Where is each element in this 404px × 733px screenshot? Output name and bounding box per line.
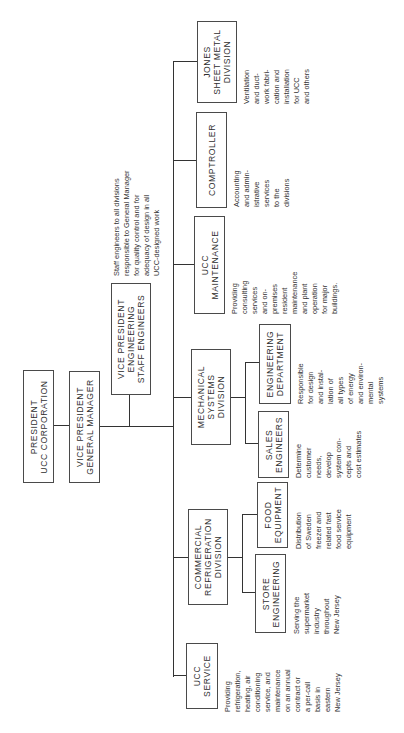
note-food-equipment: Distribution of Sweden freezer and relat… xyxy=(294,509,354,549)
box-engineering-department: ENGINEERING DEPARTMENT xyxy=(259,324,291,404)
label-president: PRESIDENT UCC CORPORATION xyxy=(29,380,49,473)
connector-jones xyxy=(173,61,197,62)
note-comptroller: Accounting and admin- istrative services… xyxy=(232,170,292,207)
connector-mechanical xyxy=(173,397,191,398)
connector-mech-sub xyxy=(231,397,246,398)
connector-comm-sub xyxy=(228,557,243,558)
label-ucc-service: UCC SERVICE xyxy=(192,655,212,697)
label-comptroller: COMPTROLLER xyxy=(207,124,217,196)
label-vp-general-manager: VICE PRESIDENT GENERAL MANAGER xyxy=(75,379,95,475)
label-vp-engineering: VICE PRESIDENT ENGINEERING STAFF ENGINEE… xyxy=(116,295,146,384)
label-sales-engineers: SALES ENGINEERS xyxy=(264,416,284,472)
main-bus-line xyxy=(173,61,174,677)
label-food-equipment: FOOD EQUIPMENT xyxy=(263,487,283,544)
note-jones-sheet-metal: Ventilation and duct- work fabri- cation… xyxy=(242,69,312,104)
box-vp-general-manager: VICE PRESIDENT GENERAL MANAGER xyxy=(69,371,100,483)
connector-eng-dept xyxy=(245,362,259,363)
note-engineering-department: Responsible for design and instal- latio… xyxy=(296,363,386,404)
box-ucc-service: UCC SERVICE xyxy=(186,643,218,709)
note-ucc-maintenance: Providing consulting services and on- pr… xyxy=(230,272,340,314)
box-mechanical-systems: MECHANICAL SYSTEMS DIVISION xyxy=(191,349,231,445)
box-comptroller: COMPTROLLER xyxy=(196,112,227,208)
connector-comm-sub-vertical xyxy=(242,514,243,593)
note-sales-engineers: Determine customer needs, develop system… xyxy=(294,431,364,478)
note-vp-engineering: Staff engineers to all divisions respons… xyxy=(112,170,162,276)
box-sales-engineers: SALES ENGINEERS xyxy=(258,411,289,478)
note-store-engineering: Serving the supermarket industry through… xyxy=(292,593,342,634)
label-mechanical-systems: MECHANICAL SYSTEMS DIVISION xyxy=(196,366,226,428)
connector-sales-eng xyxy=(245,443,258,444)
connector-president-vpgm xyxy=(53,425,69,426)
connector-vpeng xyxy=(129,395,130,427)
box-food-equipment: FOOD EQUIPMENT xyxy=(257,482,288,548)
box-store-engineering: STORE ENGINEERING xyxy=(255,554,286,633)
connector-ucc-service xyxy=(173,675,186,676)
box-president: PRESIDENT UCC CORPORATION xyxy=(23,370,54,483)
connector-ucc-maint xyxy=(173,264,194,265)
label-store-engineering: STORE ENGINEERING xyxy=(261,560,281,627)
label-engineering-department: ENGINEERING DEPARTMENT xyxy=(265,331,285,398)
box-jones-sheet-metal: JONES SHEET METAL DIVISION xyxy=(197,21,237,103)
box-ucc-maintenance: UCC MAINTENANCE xyxy=(194,216,225,314)
label-ucc-maintenance: UCC MAINTENANCE xyxy=(200,230,220,299)
connector-commercial xyxy=(173,557,188,558)
box-commercial-refrigeration: COMMERCIAL REFRIGERATION DIVISION xyxy=(188,509,228,605)
note-ucc-service: Providing refrigeration, heating, air co… xyxy=(223,669,343,712)
connector-store-eng xyxy=(242,592,255,593)
connector-mech-sub-vertical xyxy=(245,362,246,444)
connector-vpgm-bus xyxy=(99,426,174,427)
connector-food-equip xyxy=(242,514,257,515)
label-commercial-refrigeration: COMMERCIAL REFRIGERATION DIVISION xyxy=(193,518,223,596)
label-jones-sheet-metal: JONES SHEET METAL DIVISION xyxy=(202,29,232,95)
connector-comptroller xyxy=(173,160,196,161)
box-vp-engineering: VICE PRESIDENT ENGINEERING STAFF ENGINEE… xyxy=(111,283,151,395)
